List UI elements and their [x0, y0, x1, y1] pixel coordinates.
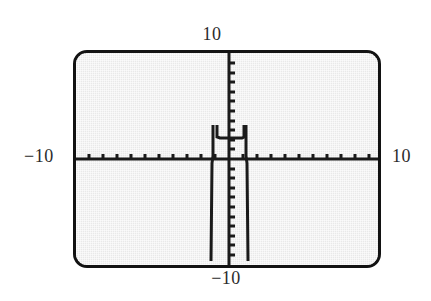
- x-axis-min-label: −10: [24, 146, 54, 167]
- x-axis-max-label: 10: [392, 146, 411, 167]
- curve-left-outer-branch: [211, 125, 213, 261]
- screenshot-root: 10 −10 10 −10: [0, 0, 431, 301]
- calculator-screen: [73, 50, 381, 268]
- y-axis-max-label: 10: [203, 24, 222, 45]
- curve-right-outer-branch: [246, 125, 248, 261]
- graph-plot: [76, 53, 378, 265]
- y-axis-min-label: −10: [211, 268, 241, 289]
